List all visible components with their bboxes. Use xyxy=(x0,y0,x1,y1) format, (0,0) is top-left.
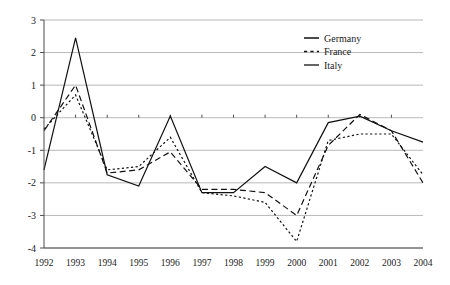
y-axis-tick-label: -3 xyxy=(28,210,36,221)
legend-label-france: France xyxy=(324,46,352,57)
y-axis-tick-label: 3 xyxy=(31,15,36,26)
chart-background xyxy=(0,0,450,285)
x-axis-tick-label: 1999 xyxy=(256,258,275,268)
x-axis-tick-label: 1994 xyxy=(98,258,117,268)
y-axis-tick-label: 2 xyxy=(31,47,36,58)
legend-label-italy: Italy xyxy=(324,60,342,71)
x-axis-tick-label: 1993 xyxy=(66,258,85,268)
legend-label-germany: Germany xyxy=(324,33,361,44)
x-axis-tick-label: 1992 xyxy=(35,258,54,268)
line-chart: 3210-1-2-3-4 199219931994199519961997199… xyxy=(0,0,450,285)
y-axis-tick-label: -4 xyxy=(28,243,36,254)
y-axis-tick-label: 1 xyxy=(31,80,36,91)
x-axis-tick-label: 2001 xyxy=(319,258,338,268)
y-axis-tick-label: -1 xyxy=(28,145,36,156)
y-axis-tick-label: 0 xyxy=(31,112,36,123)
x-axis-tick-label: 1998 xyxy=(224,258,243,268)
x-axis-tick-label: 2000 xyxy=(287,258,306,268)
x-axis-tick-label: 2003 xyxy=(382,258,401,268)
x-axis-tick-label: 1995 xyxy=(129,258,148,268)
x-axis-tick-label: 1996 xyxy=(161,258,180,268)
chart-canvas: 3210-1-2-3-4 199219931994199519961997199… xyxy=(0,0,450,285)
x-axis-tick-label: 2002 xyxy=(350,258,369,268)
y-axis-tick-label: -2 xyxy=(28,177,36,188)
x-axis-tick-label: 1997 xyxy=(192,258,211,268)
x-axis-tick-label: 2004 xyxy=(414,258,433,268)
